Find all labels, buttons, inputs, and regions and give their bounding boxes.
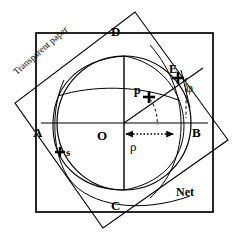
label-point-p: p [134,84,141,96]
label-point-e: E [169,63,177,75]
label-point-c: C [111,199,120,212]
label-point-s: s [66,147,70,158]
label-point-d: D [111,25,120,38]
label-point-a: A [33,126,42,139]
paper-circle-arc-lower-left [55,80,190,206]
label-point-b: B [192,126,201,139]
figure-canvas: D C A B O E p s φ ρ Net Transparent pape… [0,0,233,246]
label-radius-rho: ρ [130,140,137,153]
label-angle-phi: φ [186,82,193,94]
label-point-o: O [97,129,107,142]
label-net: Net [176,186,194,198]
